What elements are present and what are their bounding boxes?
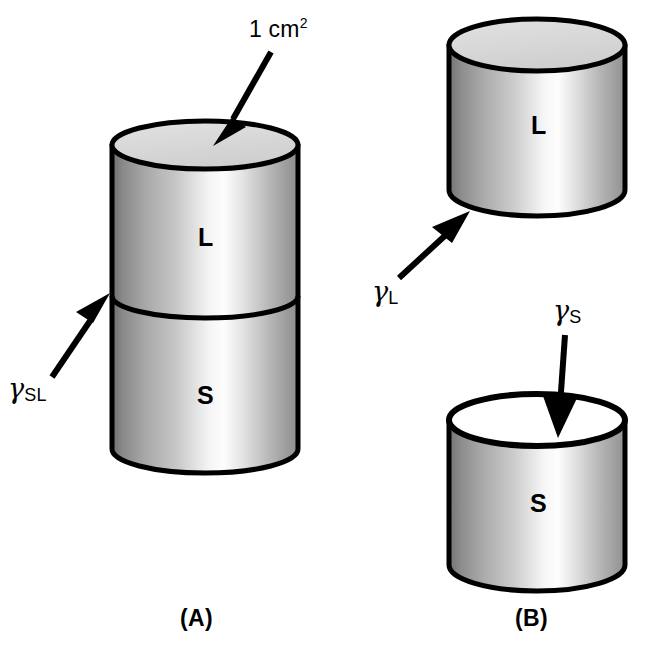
phase-label-solid-b: S xyxy=(530,491,547,516)
phase-label-liquid-b: L xyxy=(531,113,546,138)
cylinder-a-top-face xyxy=(112,121,298,169)
cylinder-a-body xyxy=(112,145,298,473)
panel-a-combined-cylinder xyxy=(52,52,298,473)
panel-b-separated-cylinders xyxy=(399,19,625,591)
gamma-l-annotation-arrow xyxy=(399,211,470,278)
gamma-l-label: γL xyxy=(372,278,398,305)
cylinder-solid-top-face xyxy=(449,394,625,446)
gamma-sl-label: γSL xyxy=(8,375,47,402)
cylinder-diagram xyxy=(0,0,654,656)
figure-canvas: 1 cm2 γSL γL γS L S L S (A) (B) xyxy=(0,0,654,656)
area-label: 1 cm2 xyxy=(249,18,308,41)
phase-label-solid-a: S xyxy=(197,383,214,408)
cylinder-liquid-top-face xyxy=(449,19,625,71)
gamma-sl-annotation-arrow xyxy=(52,293,110,377)
panel-label-a: (A) xyxy=(180,607,213,630)
phase-label-liquid-a: L xyxy=(198,225,213,250)
panel-label-b: (B) xyxy=(515,607,548,630)
gamma-s-label: γS xyxy=(553,297,581,324)
